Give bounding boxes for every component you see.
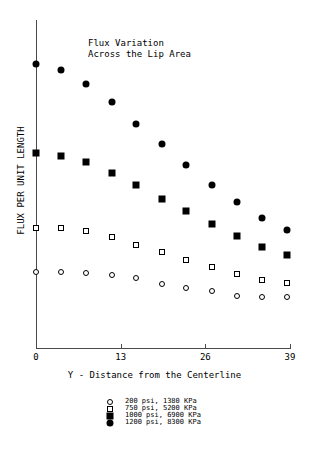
- chart-title: Flux Variation Across the Lip Area: [88, 38, 191, 60]
- x-tick: [36, 344, 37, 349]
- data-point: [83, 228, 89, 234]
- data-point: [108, 169, 115, 176]
- data-point: [258, 243, 265, 250]
- data-point: [209, 288, 215, 294]
- x-axis-label: Y - Distance from the Centerline: [0, 370, 309, 381]
- data-point: [284, 252, 291, 259]
- legend-item-label: 1200 psi, 8300 KPa: [125, 418, 201, 427]
- chart-title-line1: Flux Variation: [88, 38, 164, 48]
- data-point: [208, 221, 215, 228]
- data-point: [183, 208, 190, 215]
- data-point: [133, 182, 140, 189]
- x-tick-label: 39: [285, 352, 296, 363]
- data-point: [208, 181, 215, 188]
- data-point: [83, 270, 89, 276]
- data-point: [133, 120, 140, 127]
- data-point: [158, 141, 165, 148]
- legend-marker-filled-square-icon: [107, 413, 114, 420]
- y-axis-line: [36, 20, 37, 349]
- x-tick: [121, 344, 122, 349]
- legend-marker-open-square-icon: [107, 406, 113, 412]
- data-point: [133, 242, 139, 248]
- x-axis-line: [36, 348, 290, 349]
- data-point: [209, 264, 215, 270]
- x-tick-label: 13: [115, 352, 126, 363]
- data-point: [233, 199, 240, 206]
- data-point: [109, 234, 115, 240]
- data-point: [284, 227, 291, 234]
- data-point: [159, 249, 165, 255]
- data-point: [183, 257, 189, 263]
- legend-marker-filled-circle-icon: [107, 420, 114, 427]
- data-point: [284, 280, 290, 286]
- data-point: [58, 66, 65, 73]
- data-point: [159, 281, 165, 287]
- chart-figure: Flux Variation Across the Lip Area FLUX …: [0, 0, 309, 459]
- data-point: [109, 272, 115, 278]
- data-point: [58, 152, 65, 159]
- data-point: [133, 275, 139, 281]
- data-point: [158, 195, 165, 202]
- legend-marker-open-circle-icon: [107, 399, 113, 405]
- data-point: [58, 225, 64, 231]
- x-tick: [290, 344, 291, 349]
- data-point: [259, 277, 265, 283]
- data-point: [183, 285, 189, 291]
- data-point: [33, 61, 40, 68]
- data-point: [83, 158, 90, 165]
- data-point: [258, 215, 265, 222]
- data-point: [183, 161, 190, 168]
- data-point: [108, 98, 115, 105]
- data-point: [83, 80, 90, 87]
- y-axis-label: FLUX PER UNIT LENGTH: [16, 111, 27, 251]
- x-tick: [205, 344, 206, 349]
- data-point: [33, 225, 39, 231]
- x-tick-label: 0: [33, 352, 38, 363]
- data-point: [234, 271, 240, 277]
- chart-title-line2: Across the Lip Area: [88, 49, 191, 59]
- data-point: [33, 269, 39, 275]
- data-point: [33, 150, 40, 157]
- data-point: [233, 232, 240, 239]
- data-point: [259, 294, 265, 300]
- x-tick-label: 26: [200, 352, 211, 363]
- data-point: [284, 294, 290, 300]
- data-point: [234, 293, 240, 299]
- data-point: [58, 269, 64, 275]
